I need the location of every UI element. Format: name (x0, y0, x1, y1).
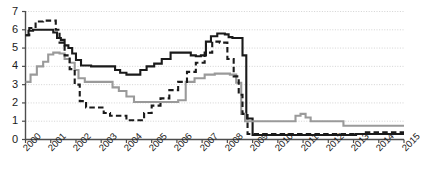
y-tick-label: 6 (4, 24, 18, 35)
y-tick-label: 4 (4, 60, 18, 71)
y-tick-label: 3 (4, 79, 18, 90)
y-tick-label: 0 (4, 134, 18, 145)
y-tick-label: 1 (4, 115, 18, 126)
y-tick-label: 2 (4, 97, 18, 108)
series-gray-solid (26, 53, 405, 126)
data-series-group (26, 21, 405, 135)
y-tick-label: 5 (4, 42, 18, 53)
y-tick-label: 7 (4, 6, 18, 17)
series-black-solid (26, 30, 405, 135)
